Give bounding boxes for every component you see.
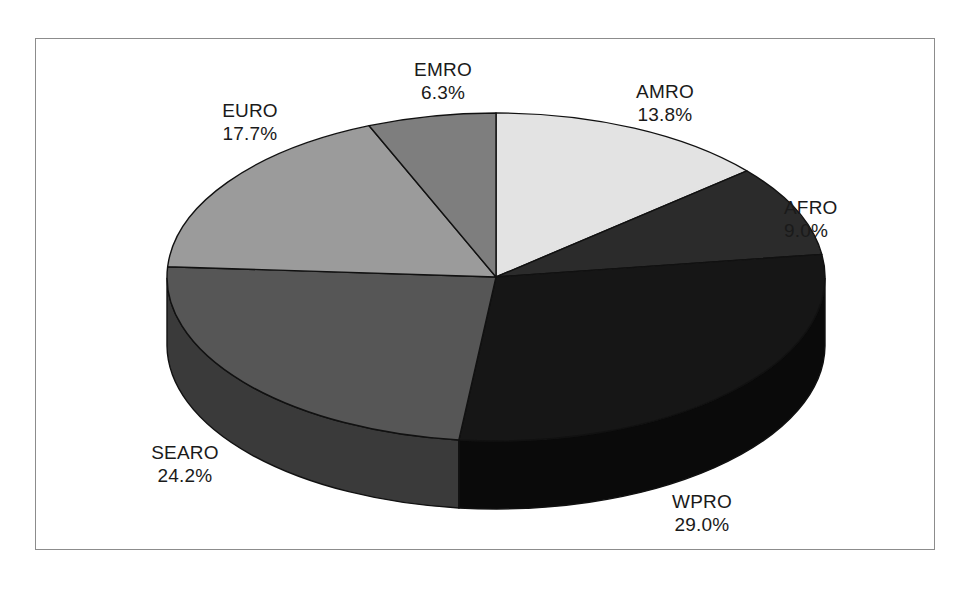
pie-label-euro-name: EURO	[190, 99, 310, 122]
pie-label-amro: AMRO 13.8%	[605, 80, 725, 126]
pie-label-wpro: WPRO 29.0%	[642, 490, 762, 536]
pie-label-afro-name: AFRO	[784, 196, 884, 219]
pie-label-amro-value: 13.8%	[605, 103, 725, 126]
pie-label-euro: EURO 17.7%	[190, 99, 310, 145]
pie-label-searo-name: SEARO	[120, 441, 250, 464]
pie-label-euro-value: 17.7%	[190, 122, 310, 145]
pie-label-amro-name: AMRO	[605, 80, 725, 103]
pie-label-emro: EMRO 6.3%	[383, 58, 503, 104]
pie-label-emro-value: 6.3%	[383, 81, 503, 104]
pie-label-searo-value: 24.2%	[120, 464, 250, 487]
pie-label-emro-name: EMRO	[383, 58, 503, 81]
pie-label-afro-value: 9.0%	[784, 219, 884, 242]
pie-top-sectors	[167, 113, 825, 441]
pie-label-wpro-value: 29.0%	[642, 513, 762, 536]
pie-label-wpro-name: WPRO	[642, 490, 762, 513]
pie-chart-figure: EMRO 6.3% AMRO 13.8% AFRO 9.0% EURO 17.7…	[0, 0, 973, 593]
pie-label-searo: SEARO 24.2%	[120, 441, 250, 487]
pie-label-afro: AFRO 9.0%	[784, 196, 884, 242]
